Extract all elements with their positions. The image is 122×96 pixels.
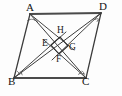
vertex-label-C: C [82, 76, 89, 87]
point-label-G: G [69, 43, 76, 53]
angle-mark-C-dot1 [80, 73, 81, 74]
vertex-label-D: D [99, 1, 107, 12]
figure-canvas [0, 0, 122, 96]
angle-mark-B-dot1 [18, 73, 19, 74]
vertex-label-B: B [8, 76, 15, 87]
angle-mark-C-dot2 [83, 73, 84, 74]
angle-mark-D-dot1 [95, 19, 96, 20]
segment-side-AD [30, 13, 101, 14]
point-label-H: H [57, 26, 64, 36]
angle-mark-A-dot2 [34, 20, 35, 21]
segment-diagonal-AC [30, 14, 86, 78]
point-label-F: F [56, 55, 61, 65]
angle-mark-A-dot1 [29, 19, 30, 20]
geometry-figure: A B C D E F G H [0, 0, 122, 96]
angle-mark-B-dot2 [21, 73, 22, 74]
vertex-label-A: A [26, 2, 34, 13]
angle-mark-D-dot2 [98, 20, 99, 21]
point-label-E: E [42, 39, 48, 49]
